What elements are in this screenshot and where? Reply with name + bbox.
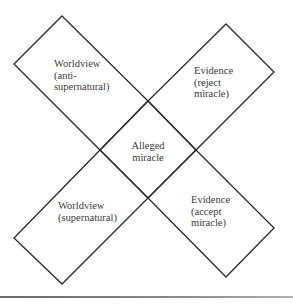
label-top-right: Evidence(rejectmiracle) <box>194 65 233 100</box>
label-top-left: Worldview(anti-supernatural) <box>54 58 109 93</box>
bottom-rule-divider <box>0 296 293 298</box>
label-line: Evidence <box>191 194 230 205</box>
label-line: Evidence <box>194 65 233 76</box>
label-line: miracle <box>132 152 163 163</box>
label-line: Worldview <box>54 58 100 69</box>
label-bottom-right: Evidence(acceptmiracle) <box>191 194 230 229</box>
label-bottom-left: Worldview(supernatural) <box>58 200 117 223</box>
label-line: Alleged <box>131 140 164 151</box>
label-line: (reject <box>194 77 221 88</box>
label-line: Worldview <box>58 200 104 211</box>
label-line: supernatural) <box>54 81 109 92</box>
label-line: (anti- <box>54 70 77 81</box>
label-line: (supernatural) <box>58 212 117 223</box>
label-center: Allegedmiracle <box>118 140 178 163</box>
label-line: (accept <box>191 206 221 217</box>
label-line: miracle) <box>194 88 229 99</box>
label-line: miracle) <box>191 217 226 228</box>
